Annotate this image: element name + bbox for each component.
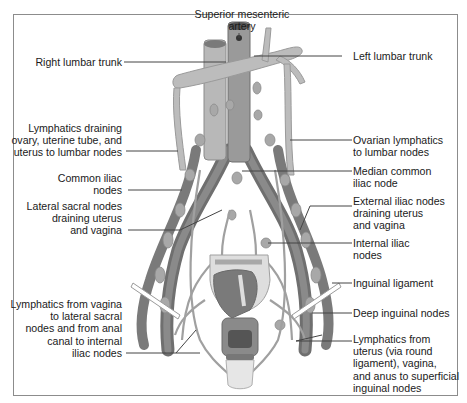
label-external-iliac-nodes: External iliac nodes draining uterus and…	[353, 195, 445, 232]
label-deep-inguinal-nodes: Deep inguinal nodes	[353, 307, 450, 319]
vena-cava	[204, 40, 226, 160]
label-right-lumbar-trunk: Right lumbar trunk	[35, 56, 122, 68]
label-lymphatics-from-uterus: Lymphatics from uterus (via round ligame…	[353, 333, 459, 394]
label-lymphatics-draining-ovary: Lymphatics draining ovary, uterine tube,…	[11, 122, 122, 159]
aorta	[228, 22, 250, 162]
label-inguinal-ligament: Inguinal ligament	[353, 277, 433, 289]
vena-cava-lumen	[204, 40, 226, 48]
uterus-vagina	[210, 255, 270, 389]
label-internal-iliac-nodes: Internal iliac nodes	[353, 237, 410, 261]
label-ovarian-lymphatics: Ovarian lymphatics to lumbar nodes	[353, 134, 443, 158]
label-common-iliac-nodes: Common iliac nodes	[58, 172, 122, 196]
label-superior-mesenteric-artery: Superior mesenteric artery	[192, 8, 292, 32]
label-lymphatics-from-vagina: Lymphatics from vagina to lateral sacral…	[11, 298, 122, 359]
label-lateral-sacral-nodes: Lateral sacral nodes draining uterus and…	[27, 200, 122, 237]
label-median-common-iliac-node: Median common iliac node	[353, 165, 431, 189]
label-left-lumbar-trunk: Left lumbar trunk	[353, 50, 433, 62]
